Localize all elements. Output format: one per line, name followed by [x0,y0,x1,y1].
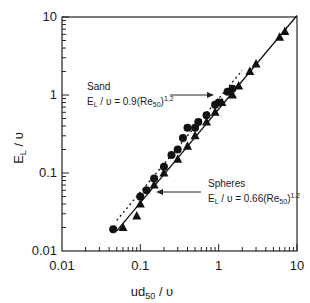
sand-point-circle-icon [179,134,187,142]
sand-annotation: Sand EL / υ = 0.9(Re50)1.2 [87,81,214,108]
plot-border [62,17,297,251]
spheres-point-triangle-icon [280,27,289,36]
spheres-point-triangle-icon [191,131,200,140]
sand-point-circle-icon [143,186,151,194]
spheres-annotation-equation: EL / υ = 0.66(Re50)1.2 [208,192,300,205]
spheres-arrowhead-icon [156,189,163,195]
x-tick-label: 10 [290,258,304,273]
sand-point-circle-icon [174,146,182,154]
y-axis-label: EL / υ [11,132,28,164]
sand-arrowhead-icon [207,92,214,98]
sand-annotation-equation: EL / υ = 0.9(Re50)1.2 [87,95,174,108]
spheres-annotation-title: Spheres [208,178,245,189]
sand-point-circle-icon [168,151,176,159]
sand-point-circle-icon [194,118,202,126]
spheres-annotation: Spheres EL / υ = 0.66(Re50)1.2 [156,178,300,205]
x-tick-label: 1 [215,258,222,273]
plot-frame [62,17,297,251]
x-tick-label: 0.1 [131,258,149,273]
sand-point-circle-icon [183,124,191,132]
sand-point-circle-icon [109,225,117,233]
spheres-point-triangle-icon [132,211,141,220]
spheres-point-triangle-icon [211,107,220,116]
spheres-point-triangle-icon [136,199,145,208]
scatter-chart: 0.010.11100.010.1110 EL / υ ud50 / υ San… [0,0,310,303]
axis-tick-labels: 0.010.11100.010.1110 [32,9,305,273]
y-tick-label: 1 [50,87,57,102]
x-tick-label: 0.01 [49,258,74,273]
y-tick-label: 0.1 [39,165,57,180]
x-axis-label: ud50 / υ [131,284,173,301]
y-tick-label: 0.01 [32,243,57,258]
sand-annotation-title: Sand [87,81,110,92]
spheres-point-triangle-icon [150,180,159,189]
spheres-point-triangle-icon [202,117,211,126]
axis-ticks [62,17,297,251]
y-tick-label: 10 [43,9,57,24]
